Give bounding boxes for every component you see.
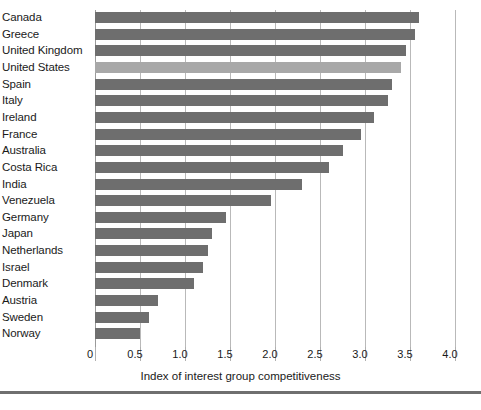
category-label: United Kingdom	[2, 44, 90, 56]
category-label: Ireland	[2, 111, 90, 123]
gridline-4.0	[455, 10, 456, 347]
bar-norway[interactable]	[95, 328, 140, 339]
x-tick-label: 3.5	[397, 348, 412, 360]
x-tick-label: 2.0	[262, 348, 277, 360]
category-label: Sweden	[2, 311, 90, 323]
bar-france[interactable]	[95, 129, 361, 140]
x-tick-label: 0.5	[127, 348, 142, 360]
category-label: Italy	[2, 94, 90, 106]
x-tick-label: 4.0	[442, 348, 457, 360]
x-axis-title: Index of interest group competitiveness	[0, 370, 481, 382]
bar-israel[interactable]	[95, 262, 203, 273]
category-label: Norway	[2, 327, 90, 339]
x-tick-label: 0	[87, 348, 93, 360]
gridline-2.5	[320, 10, 321, 347]
category-label: France	[2, 128, 90, 140]
category-label: Canada	[2, 11, 90, 23]
category-label: Israel	[2, 261, 90, 273]
bar-canada[interactable]	[95, 12, 419, 23]
bar-greece[interactable]	[95, 29, 415, 40]
category-label: Germany	[2, 211, 90, 223]
category-label: Austria	[2, 294, 90, 306]
category-label: Greece	[2, 28, 90, 40]
category-label: Australia	[2, 144, 90, 156]
x-tick-label: 1.5	[217, 348, 232, 360]
category-label: India	[2, 178, 90, 190]
bar-spain[interactable]	[95, 79, 392, 90]
tickmark-0	[95, 347, 96, 361]
x-tick-label: 2.5	[307, 348, 322, 360]
bar-united-states[interactable]	[95, 62, 401, 73]
category-label: Spain	[2, 78, 90, 90]
gridline-3.5	[410, 10, 411, 347]
category-labels-group: CanadaGreeceUnited KingdomUnited StatesS…	[20, 0, 90, 360]
bar-austria[interactable]	[95, 295, 158, 306]
bar-sweden[interactable]	[95, 312, 149, 323]
bar-denmark[interactable]	[95, 278, 194, 289]
category-label: United States	[2, 61, 90, 73]
bar-italy[interactable]	[95, 95, 388, 106]
x-tick-label: 3.0	[352, 348, 367, 360]
x-tick-label: 1.0	[172, 348, 187, 360]
gridline-3.0	[365, 10, 366, 347]
bar-germany[interactable]	[95, 212, 226, 223]
bar-netherlands[interactable]	[95, 245, 208, 256]
bar-united-kingdom[interactable]	[95, 45, 406, 56]
chart-plot-area: CanadaGreeceUnited KingdomUnited StatesS…	[0, 0, 481, 360]
bar-india[interactable]	[95, 179, 302, 190]
category-label: Netherlands	[2, 244, 90, 256]
bar-ireland[interactable]	[95, 112, 374, 123]
bar-australia[interactable]	[95, 145, 343, 156]
bar-japan[interactable]	[95, 228, 212, 239]
figure: CanadaGreeceUnited KingdomUnited StatesS…	[0, 0, 481, 410]
bar-venezuela[interactable]	[95, 195, 271, 206]
category-label: Costa Rica	[2, 161, 90, 173]
category-label: Denmark	[2, 277, 90, 289]
category-label: Japan	[2, 227, 90, 239]
bottom-rule-divider	[0, 391, 481, 394]
category-label: Venezuela	[2, 194, 90, 206]
bar-costa-rica[interactable]	[95, 162, 329, 173]
